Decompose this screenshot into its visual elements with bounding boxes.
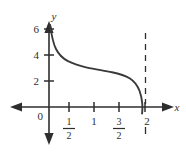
x-tick-label-two: 2 [144,115,150,127]
x-tick-label-one: 1 [91,115,97,127]
y-axis-name-label: y [51,10,57,22]
graph-canvas: 6 4 2 0 1 2 1 3 2 2 x y [0,0,186,159]
y-tick-labels: 6 4 2 [34,23,40,87]
function-graph-figure: 6 4 2 0 1 2 1 3 2 2 x y [0,0,186,159]
x-axis-name-label: x [174,101,180,113]
x-axis [10,102,174,111]
x-tick-label-half: 1 2 [63,116,75,141]
x-tick-three-halves-numerator: 3 [117,116,122,127]
x-tick-half-numerator: 1 [67,116,72,127]
y-axis-arrow-bottom [44,133,53,145]
x-tick-three-halves-denominator: 2 [117,130,122,141]
y-tick-label-4: 4 [34,49,40,61]
origin-label: 0 [38,110,44,122]
function-curve [50,25,142,114]
x-axis-arrow-right [162,102,174,111]
y-tick-label-2: 2 [34,75,40,87]
x-tick-half-denominator: 2 [67,130,72,141]
x-axis-arrow-left [10,102,22,111]
y-tick-label-6: 6 [34,23,40,35]
x-tick-label-three-halves: 3 2 [113,116,125,141]
y-axis-arrow-top [44,21,53,33]
